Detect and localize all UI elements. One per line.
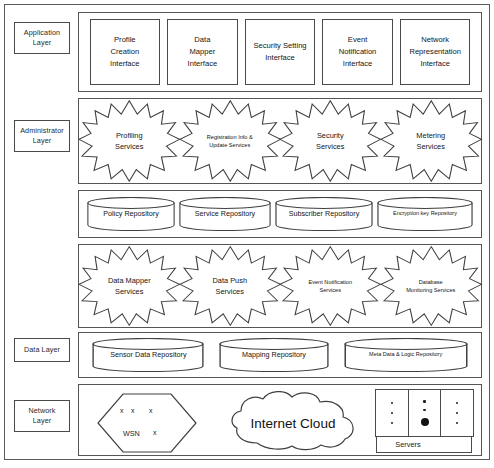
interface-box-security-setting[interactable]: Security SettingInterface xyxy=(245,19,316,85)
service-star-database-monitoring[interactable]: DatabaseMonitoring Services xyxy=(381,245,482,327)
repository-meta-data-logic[interactable]: Meta Data & Logic Repository xyxy=(344,338,468,372)
interface-label: Security SettingInterface xyxy=(253,40,306,64)
interface-box-event-notification[interactable]: EventNotificationInterface xyxy=(322,19,393,85)
service-star-security[interactable]: SecurityServices xyxy=(280,99,381,183)
service-star-metering[interactable]: MeteringServices xyxy=(381,99,482,183)
service-label: Data PushServices xyxy=(212,275,247,297)
service-label: DatabaseMonitoring Services xyxy=(406,278,455,295)
repository-label: Subscriber Repository xyxy=(285,209,364,218)
interface-box-profile-creation[interactable]: ProfileCreationInterface xyxy=(90,19,161,85)
interface-label: ProfileCreationInterface xyxy=(110,34,140,69)
wsn-sensor-nodes: x x x x xyxy=(97,393,197,453)
server-indicator-dot xyxy=(456,402,458,404)
service-star-event-notification[interactable]: Event NotificationServices xyxy=(280,245,381,327)
server-rack[interactable] xyxy=(440,389,474,437)
panel-administrator-services-1: ProfilingServices Registration Info &Upd… xyxy=(78,98,482,184)
interface-box-data-mapper[interactable]: DataMapperInterface xyxy=(167,19,238,85)
service-label: MeteringServices xyxy=(416,130,445,152)
layer-label-application: ApplicationLayer xyxy=(14,22,70,54)
interface-box-network-representation[interactable]: NetworkRepresentationInterface xyxy=(400,19,471,85)
repository-subscriber[interactable]: Subscriber Repository xyxy=(275,197,373,231)
interface-label: EventNotificationInterface xyxy=(339,34,377,69)
repository-label: Mapping Repository xyxy=(238,350,310,359)
wsn-hexagon[interactable]: x x x x WSN xyxy=(97,393,197,453)
repository-service[interactable]: Service Repository xyxy=(179,197,271,231)
server-indicator-dot xyxy=(391,412,393,414)
repository-label: Meta Data & Logic Repository xyxy=(365,351,446,358)
server-rack[interactable] xyxy=(375,389,409,437)
panel-data-layer: Sensor Data Repository Mapping Repositor… xyxy=(78,332,482,378)
panel-network-layer: x x x x WSN Internet Cloud xyxy=(78,384,482,456)
service-star-profiling[interactable]: ProfilingServices xyxy=(79,99,180,183)
panel-administrator-services-2: Data MapperServices Data PushServices Ev… xyxy=(78,244,482,328)
server-indicator-dot xyxy=(423,400,425,402)
servers-label-box: Servers xyxy=(376,436,440,453)
repository-label: Service Repository xyxy=(191,209,259,218)
repository-policy[interactable]: Policy Repository xyxy=(87,197,175,231)
server-indicator-dot xyxy=(456,422,458,424)
repository-mapping[interactable]: Mapping Repository xyxy=(219,338,329,372)
server-indicator-dot xyxy=(391,422,393,424)
service-label: Data MapperServices xyxy=(108,275,151,297)
layer-label-data-text: Data Layer xyxy=(24,345,60,355)
layer-label-network-text: NetworkLayer xyxy=(28,406,55,427)
server-rack[interactable] xyxy=(408,389,442,437)
service-star-data-mapper[interactable]: Data MapperServices xyxy=(79,245,180,327)
repository-sensor-data[interactable]: Sensor Data Repository xyxy=(92,338,204,372)
layer-label-application-text: ApplicationLayer xyxy=(24,28,60,49)
service-label: Registration Info &Update Services xyxy=(207,133,253,150)
internet-cloud[interactable]: Internet Cloud xyxy=(227,391,359,453)
layer-label-administrator: AdministratorLayer xyxy=(14,120,70,152)
repository-label: Encryption key Repository xyxy=(389,210,461,217)
service-label: Event NotificationServices xyxy=(308,278,352,295)
interface-label: NetworkRepresentationInterface xyxy=(409,34,461,69)
server-indicator-dot-active xyxy=(421,418,429,426)
service-label: SecurityServices xyxy=(316,130,344,152)
sensor-node-icon: x xyxy=(153,429,157,436)
panel-application-layer: ProfileCreationInterface DataMapperInter… xyxy=(78,12,482,92)
servers-group[interactable]: Servers xyxy=(375,389,473,459)
layer-label-administrator-text: AdministratorLayer xyxy=(20,126,64,147)
server-indicator-dot xyxy=(456,412,458,414)
layer-label-data: Data Layer xyxy=(14,338,70,362)
servers-label: Servers xyxy=(395,440,420,449)
sensor-node-icon: x xyxy=(149,407,153,414)
repository-encryption-key[interactable]: Encryption key Repository xyxy=(377,197,473,231)
sensor-node-icon: x xyxy=(131,407,135,414)
repository-label: Policy Repository xyxy=(99,209,163,218)
server-racks xyxy=(375,389,473,437)
layer-label-network: NetworkLayer xyxy=(14,400,70,432)
interface-label: DataMapperInterface xyxy=(188,34,218,69)
server-indicator-dot xyxy=(391,402,393,404)
service-label: ProfilingServices xyxy=(115,130,143,152)
service-star-registration-info-update[interactable]: Registration Info &Update Services xyxy=(180,99,281,183)
repository-label: Sensor Data Repository xyxy=(106,350,190,359)
service-star-data-push[interactable]: Data PushServices xyxy=(180,245,281,327)
server-indicator-dot xyxy=(423,409,425,411)
cloud-label: Internet Cloud xyxy=(227,391,359,453)
servers-base-box xyxy=(439,436,472,453)
panel-administrator-repositories: Policy Repository Service Repository Sub… xyxy=(78,190,482,238)
sensor-node-icon: x xyxy=(120,407,124,414)
architecture-diagram: ApplicationLayer AdministratorLayer Data… xyxy=(0,0,494,468)
